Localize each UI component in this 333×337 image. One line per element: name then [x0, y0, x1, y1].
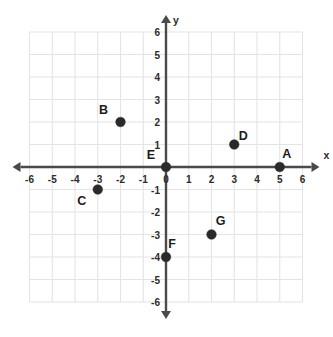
data-point-b	[116, 117, 126, 127]
x-tick-label: -5	[48, 174, 57, 185]
data-point-e	[161, 162, 171, 172]
point-label-c: C	[77, 194, 86, 208]
x-tick-label: -3	[93, 174, 102, 185]
x-tick-label: -4	[71, 174, 80, 185]
y-tick-label: 2	[154, 117, 160, 128]
x-tick-label: 6	[300, 174, 306, 185]
x-tick-label: -2	[116, 174, 125, 185]
y-tick-label: -6	[151, 297, 160, 308]
point-label-d: D	[239, 129, 248, 143]
y-tick-label: -4	[151, 252, 160, 263]
axis-name-labels: xy	[173, 14, 330, 161]
point-label-f: F	[168, 237, 176, 251]
point-label-a: A	[282, 147, 291, 161]
point-label-b: B	[99, 103, 108, 117]
y-tick-label: 5	[154, 50, 160, 61]
y-tick-label: 3	[154, 95, 160, 106]
x-tick-label: 3	[231, 174, 237, 185]
data-point-a	[275, 162, 285, 172]
x-tick-label: -1	[139, 174, 148, 185]
y-tick-label: 4	[154, 72, 160, 83]
x-tick-label: 5	[277, 174, 283, 185]
y-tick-label: -5	[151, 275, 160, 286]
y-tick-label: 6	[154, 27, 160, 38]
data-point-c	[93, 185, 103, 195]
x-axis-name: x	[324, 149, 330, 161]
coordinate-plane-svg: -6-5-4-3-2-10123456-6-5-4-3-2-1123456 xy…	[0, 0, 333, 337]
y-tick-label: 1	[154, 140, 160, 151]
y-tick-label: -1	[151, 185, 160, 196]
x-axis-arrow-left	[13, 162, 21, 172]
x-tick-label: 0	[163, 174, 169, 185]
y-axis-arrow-up	[161, 15, 171, 23]
y-axis-arrow-down	[161, 311, 171, 319]
data-point-d	[229, 140, 239, 150]
x-tick-label: 4	[254, 174, 260, 185]
data-point-f	[161, 252, 171, 262]
x-tick-label: 1	[186, 174, 192, 185]
x-axis-arrow-right	[312, 162, 320, 172]
x-tick-label: -6	[25, 174, 34, 185]
x-tick-label: 2	[209, 174, 215, 185]
point-label-g: G	[216, 214, 226, 228]
coordinate-plane-figure: -6-5-4-3-2-10123456-6-5-4-3-2-1123456 xy…	[0, 0, 333, 337]
y-tick-label: -2	[151, 207, 160, 218]
y-tick-label: -3	[151, 230, 160, 241]
point-label-e: E	[147, 148, 155, 162]
y-axis-name: y	[173, 14, 179, 26]
data-point-g	[207, 230, 217, 240]
